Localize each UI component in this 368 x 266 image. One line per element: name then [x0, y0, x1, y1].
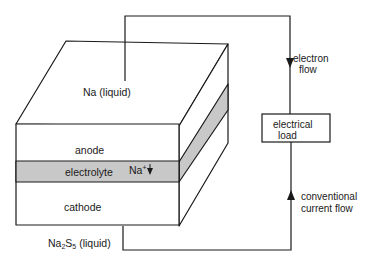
current-flow-arrow-icon — [287, 190, 295, 200]
cathode-label: cathode — [64, 201, 102, 213]
electron-flow-label-line1: electron — [293, 53, 329, 64]
electron-flow-label-line2: flow — [299, 64, 318, 75]
cell-block — [16, 41, 228, 226]
load-label-line2: load — [278, 130, 297, 141]
current-flow-label-line1: conventional — [301, 191, 357, 202]
anode-material-label: Na (liquid) — [83, 86, 131, 98]
cathode-material-label: Na2S5 (liquid) — [48, 237, 111, 250]
current-flow-label-line2: current flow — [301, 203, 353, 214]
load-label-line1: electrical — [273, 119, 312, 130]
electrolyte-label: electrolyte — [65, 166, 113, 178]
anode-label: anode — [75, 144, 104, 156]
sodium-sulfur-cell-diagram: Na (liquid) anode electrolyte Na+ cathod… — [0, 0, 368, 266]
